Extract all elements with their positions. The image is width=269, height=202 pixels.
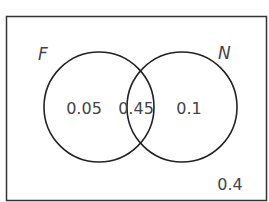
region-only-n-value: 0.1 [176,99,201,118]
region-intersection-value: 0.45 [118,99,154,118]
venn-diagram: F N 0.05 0.45 0.1 0.4 [0,0,269,202]
set-f-label: F [38,44,48,64]
set-n-label: N [218,43,231,63]
region-outside-value: 0.4 [217,175,242,194]
region-only-f-value: 0.05 [66,99,102,118]
